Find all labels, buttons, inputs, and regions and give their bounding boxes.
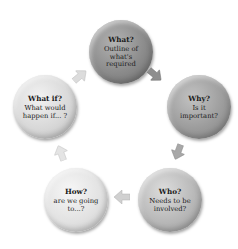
node-what-if: What if? What would happen if... ? [13,75,77,139]
node-how-description: are we going to...? [53,198,99,213]
node-how: How? are we going to...? [44,168,108,232]
arrow-what-if-to-what-icon [69,65,90,86]
node-who-title: Who? [159,187,181,196]
node-who: Who? Needs to be involved? [138,168,202,232]
arrow-why-to-who-icon [169,142,188,162]
node-what-description: Outline of what's required [102,46,140,69]
node-why-description: Is it important? [178,105,220,120]
node-what-if-title: What if? [28,94,62,103]
node-why: Why? Is it important? [167,75,231,139]
node-how-title: How? [65,187,87,196]
node-why-title: Why? [188,94,210,103]
node-what-if-description: What would happen if... ? [21,105,69,120]
node-what-title: What? [108,35,134,44]
node-who-description: Needs to be involved? [147,198,193,213]
arrow-how-to-what-if-icon [52,143,71,163]
arrow-who-to-how-icon [114,190,130,204]
